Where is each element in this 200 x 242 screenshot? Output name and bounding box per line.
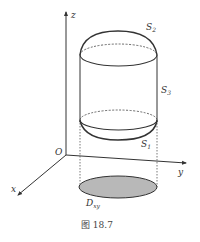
figure-caption: 图 18.7 — [81, 220, 113, 230]
x-axis-label: x — [11, 184, 16, 194]
bottom-rim-back — [80, 110, 157, 120]
label-s2: S2 — [146, 22, 156, 33]
top-cap-s2 — [80, 31, 157, 55]
origin-label: O — [55, 147, 63, 157]
label-dxy: Dxy — [85, 198, 101, 210]
y-axis-label: y — [177, 167, 184, 177]
region-dxy — [79, 176, 157, 198]
bottom-rim-front — [80, 120, 157, 130]
label-s1: S1 — [141, 139, 151, 150]
top-rim-back — [80, 44, 157, 55]
cylinder-surface-s3 — [80, 55, 157, 122]
diagram-figure: z y x O S2 S3 S1 Dxy 图 18.7 — [0, 0, 200, 242]
label-s3: S3 — [161, 85, 171, 96]
z-axis-label: z — [70, 10, 76, 20]
x-axis — [18, 155, 66, 195]
y-axis — [66, 155, 186, 163]
top-rim-front — [80, 55, 157, 66]
axes: z y x O — [11, 10, 186, 195]
